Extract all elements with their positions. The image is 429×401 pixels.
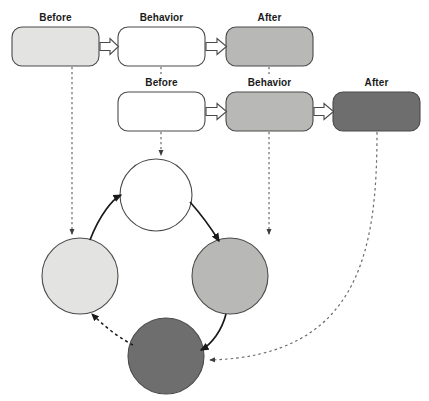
box-row2-behavior <box>226 92 313 131</box>
box-row2-before <box>118 92 205 131</box>
label-row1-after: After <box>226 12 313 23</box>
box-row1-before <box>12 27 99 66</box>
box-row1-after <box>226 27 313 66</box>
cycle-arrow-top-to-right <box>190 202 219 241</box>
cycle-arrow-left-to-top <box>90 195 121 240</box>
circle-left <box>42 238 118 314</box>
block-arrow-row1-behavior-to-after <box>206 39 227 55</box>
diagram-svg <box>0 0 429 401</box>
label-row2-after: After <box>333 77 420 88</box>
label-row2-before: Before <box>118 77 205 88</box>
circle-top <box>120 159 192 231</box>
cycle-arrow-bottom-to-left <box>92 314 133 345</box>
block-arrow-row2-before-to-behavior <box>206 104 227 120</box>
label-row2-behavior: Behavior <box>226 77 313 88</box>
circle-right <box>192 238 268 314</box>
diagram-canvas: Before Behavior After Before Behavior Af… <box>0 0 429 401</box>
circle-bottom <box>128 318 204 394</box>
box-row2-after <box>333 92 420 131</box>
label-row1-before: Before <box>12 12 99 23</box>
box-row1-behavior <box>118 27 205 66</box>
cycle-arrow-right-to-bottom <box>201 314 226 350</box>
block-arrow-row1-before-to-behavior <box>100 39 119 55</box>
block-arrow-row2-behavior-to-after <box>314 104 334 120</box>
label-row1-behavior: Behavior <box>118 12 205 23</box>
